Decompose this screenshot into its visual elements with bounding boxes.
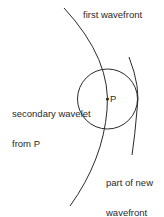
point-p-label: P bbox=[110, 94, 116, 104]
secondary-wavelet-label-line2: from P bbox=[12, 139, 91, 149]
first-wavefront-label: first wavefront bbox=[83, 10, 142, 20]
point-p-dot bbox=[106, 97, 109, 100]
new-wavefront-label: part of new wavefront bbox=[106, 158, 153, 217]
new-wavefront-label-line2: wavefront bbox=[106, 208, 153, 217]
secondary-wavelet-label-line1: secondary wavelet bbox=[12, 109, 91, 119]
secondary-wavelet-label: secondary wavelet from P bbox=[12, 89, 91, 159]
new-wavefront-label-line1: part of new bbox=[106, 178, 153, 188]
